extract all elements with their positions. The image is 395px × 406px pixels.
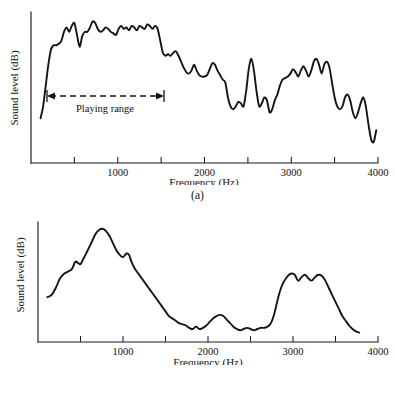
chart-a-xtick-1000: 1000 (107, 167, 128, 178)
playing-range-annotation: Playing range (47, 90, 164, 114)
chart-a-ylabel-text: Sound level (dB) (8, 50, 21, 125)
chart-b-svg: Sound level (dB) 1000 2000 3000 4000 (0, 200, 395, 365)
chart-b-ylabel: Sound level (dB) (14, 237, 27, 312)
chart-a-svg: Sound level (dB) 1000 2000 3000 4000 (0, 0, 395, 185)
chart-b-ylabel-text: Sound level (dB) (14, 237, 27, 312)
playing-range-arrow-right-icon (156, 93, 164, 100)
chart-a-xtick-3000: 3000 (281, 167, 302, 178)
chart-a-xtick-4000: 4000 (368, 167, 389, 178)
chart-b-xtick-4000: 4000 (368, 346, 389, 357)
chart-a-curve (41, 21, 377, 142)
chart-a-ylabel: Sound level (dB) (8, 50, 21, 125)
playing-range-label: Playing range (76, 103, 134, 114)
chart-b-curve (47, 229, 359, 333)
chart-b-xtick-3000: 3000 (283, 346, 304, 357)
panel-a: Sound level (dB) 1000 2000 3000 4000 (0, 0, 395, 205)
chart-b-xticks (81, 336, 379, 342)
chart-a-xticks (74, 157, 378, 163)
chart-b-xlabel: Frequency (Hz) (173, 356, 243, 365)
chart-a-xlabel: Frequency (Hz) (169, 176, 239, 185)
figure-container: Sound level (dB) 1000 2000 3000 4000 (0, 0, 395, 406)
chart-b-xtick-1000: 1000 (113, 346, 134, 357)
panel-b: Sound level (dB) 1000 2000 3000 4000 (0, 200, 395, 406)
playing-range-arrow-left-icon (47, 93, 55, 100)
